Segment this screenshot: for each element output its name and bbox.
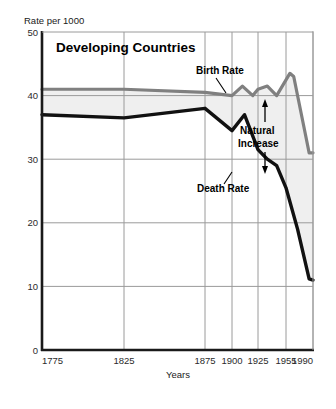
x-tick-labels: 1775182518751900192519551990 xyxy=(42,355,313,366)
y-tick-labels: 50403020100 xyxy=(27,27,38,356)
y-tick-label-20: 20 xyxy=(27,217,38,228)
natural-increase-shaded-area xyxy=(42,73,313,280)
x-tick-label-1990: 1990 xyxy=(292,355,313,366)
y-tick-label-10: 10 xyxy=(27,281,38,292)
y-tick-label-30: 30 xyxy=(27,154,38,165)
birth-rate-label: Birth Rate xyxy=(196,65,244,76)
x-tick-label-1900: 1900 xyxy=(221,355,242,366)
x-tick-label-1925: 1925 xyxy=(247,355,268,366)
chart-axes xyxy=(41,31,314,351)
chart-page: 50403020100 1775182518751900192519551990… xyxy=(0,0,336,409)
plot-title: Developing Countries xyxy=(56,40,196,55)
y-tick-label-50: 50 xyxy=(27,27,38,38)
x-tick-label-1875: 1875 xyxy=(194,355,215,366)
x-tick-label-1825: 1825 xyxy=(113,355,134,366)
y-axis-title: Rate per 1000 xyxy=(24,15,84,26)
natural-increase-label-line1: Natural xyxy=(240,125,275,136)
birth-rate-leader-line xyxy=(216,78,226,93)
y-tick-label-40: 40 xyxy=(27,90,38,101)
natural-increase-label-line2: Increase xyxy=(238,138,279,149)
population-rates-line-chart: 50403020100 1775182518751900192519551990… xyxy=(0,0,336,409)
y-tick-label-0: 0 xyxy=(33,345,38,356)
x-axis-title: Years xyxy=(166,369,190,380)
x-tick-label-1775: 1775 xyxy=(42,355,63,366)
death-rate-label: Death Rate xyxy=(197,183,250,194)
